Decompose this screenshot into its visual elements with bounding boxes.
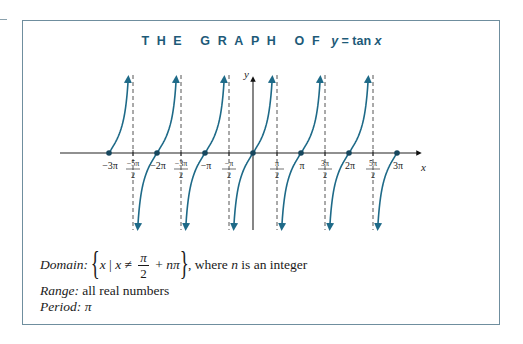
range-value: all real numbers — [79, 283, 169, 298]
zero-point — [250, 150, 256, 156]
domain-tail-2: is an integer — [238, 257, 307, 273]
tick-label-den: 2 — [323, 171, 327, 180]
tick-label: π — [299, 160, 304, 171]
range-line: Range: all real numbers — [40, 283, 169, 299]
zero-point — [298, 150, 304, 156]
period-line: Period: π — [40, 299, 91, 315]
domain-tail-n: n — [231, 257, 238, 273]
tick-label-den: 2 — [179, 171, 183, 180]
tick-label-num: 3π — [321, 159, 329, 168]
tick-label: 2π — [345, 160, 355, 171]
tick-label-den: 2 — [227, 171, 231, 180]
axes: xy — [60, 68, 426, 230]
x-axis-label: x — [420, 161, 426, 173]
tick-label-den: 2 — [371, 171, 375, 180]
zero-point — [394, 150, 400, 156]
domain-n: n — [166, 257, 173, 273]
frac-num: π — [138, 251, 149, 266]
right-brace: } — [179, 246, 188, 280]
tick-label-num: −3π — [175, 159, 188, 168]
domain-neq: ≠ — [121, 257, 135, 273]
tick-label-den: 2 — [275, 171, 279, 180]
domain-fraction: π2 — [138, 251, 149, 280]
tick-label-num: π — [275, 159, 279, 168]
tick-label: −π — [201, 160, 212, 171]
left-brace: { — [91, 246, 100, 280]
tick-label: −3π — [102, 160, 118, 171]
frac-den: 2 — [140, 266, 147, 280]
domain-tail-1: , where — [188, 257, 231, 273]
tick-label-num: −5π — [127, 159, 140, 168]
tick-label: 3π — [393, 160, 403, 171]
tan-branch — [109, 79, 128, 153]
tick-label: −2π — [150, 160, 166, 171]
y-axis-label: y — [243, 68, 249, 80]
zero-point — [202, 150, 208, 156]
period-label: Period: — [40, 299, 81, 314]
zero-point — [106, 150, 112, 156]
zero-point — [154, 150, 160, 156]
domain-plus: + — [152, 257, 166, 273]
tick-label-num: −π — [225, 159, 234, 168]
range-label: Range: — [40, 283, 79, 298]
tick-label-num: 5π — [369, 159, 377, 168]
domain-line: Domain: { x | x ≠ π2 + nπ } , where n is… — [40, 246, 307, 284]
tick-label-den: 2 — [131, 171, 135, 180]
domain-bar: | — [106, 257, 115, 273]
zero-point — [346, 150, 352, 156]
period-value: π — [81, 299, 91, 314]
domain-label: Domain: — [40, 257, 88, 273]
